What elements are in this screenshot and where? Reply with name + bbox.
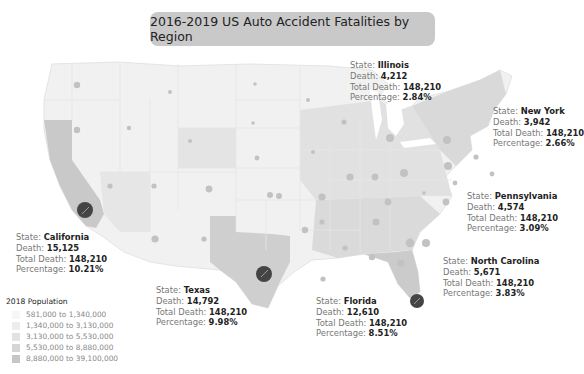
legend-swatch xyxy=(12,322,20,330)
legend-swatch xyxy=(12,355,20,363)
tooltip-new-york: State: New York Death: 3,942 Total Death… xyxy=(493,106,584,149)
legend-swatch xyxy=(12,344,20,352)
legend-item[interactable]: 1,340,000 to 3,130,000 xyxy=(6,320,118,331)
legend-item[interactable]: 581,000 to 1,340,000 xyxy=(6,309,118,320)
legend-title: 2018 Population xyxy=(6,297,118,306)
legend-item[interactable]: 8,880,000 to 39,100,000 xyxy=(6,353,118,364)
tooltip-texas: State: Texas Death: 14,792 Total Death: … xyxy=(156,285,247,328)
tooltip-illinois: State: Illinois Death: 4,212 Total Death… xyxy=(350,60,441,103)
southeast-region xyxy=(312,196,440,258)
legend-item[interactable]: 5,530,000 to 8,880,000 xyxy=(6,342,118,353)
california-circle xyxy=(77,202,93,218)
tooltip-pennsylvania: State: Pennsylvania Death: 4,574 Total D… xyxy=(467,191,558,234)
legend-swatch xyxy=(12,311,20,319)
legend-swatch xyxy=(12,333,20,341)
tooltip-california: State: California Death: 15,125 Total De… xyxy=(16,232,107,275)
legend-item[interactable]: 3,130,000 to 5,530,000 xyxy=(6,331,118,342)
colorado-region xyxy=(178,128,236,168)
population-legend: 2018 Population 581,000 to 1,340,000 1,3… xyxy=(6,297,118,364)
tooltip-florida: State: Florida Death: 12,610 Total Death… xyxy=(316,296,407,339)
chart-title: 2016-2019 US Auto Accident Fatalities by… xyxy=(150,12,435,46)
tooltip-north-carolina: State: North Carolina Death: 5,671 Total… xyxy=(443,256,539,299)
